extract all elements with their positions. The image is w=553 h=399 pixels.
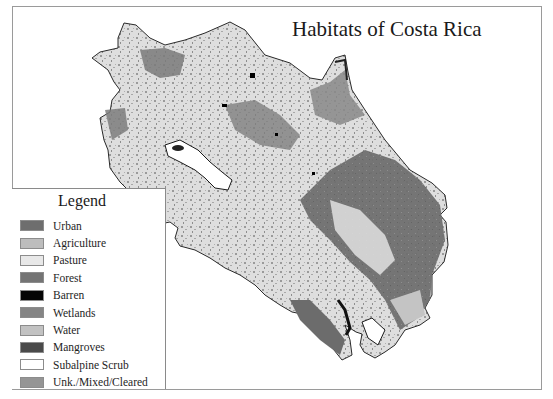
swatch-wetlands [20,307,44,318]
legend-item-pasture: Pasture [20,252,148,269]
legend-item-urban: Urban [20,217,148,234]
legend-item-subalpine-scrub: Subalpine Scrub [20,356,148,373]
swatch-urban [20,220,44,231]
legend-label: Mangroves [53,341,105,353]
legend-label: Subalpine Scrub [53,359,129,371]
swatch-pasture [20,255,44,266]
legend-label: Agriculture [53,237,106,249]
barren-spot [275,133,278,136]
legend-box: Legend Urban Agriculture Pasture Forest … [12,188,166,389]
legend-item-unk-mixed-cleared: Unk./Mixed/Cleared [20,374,148,391]
legend-label: Pasture [53,254,87,266]
swatch-subalpine-scrub [20,359,44,370]
legend-label: Water [53,324,80,336]
legend-item-water: Water [20,321,148,338]
legend-label: Wetlands [53,307,96,319]
legend-item-mangroves: Mangroves [20,339,148,356]
barren-spot [312,172,315,175]
legend-label: Forest [53,272,82,284]
legend-item-forest: Forest [20,269,148,286]
legend-item-wetlands: Wetlands [20,304,148,321]
swatch-water [20,325,44,336]
swatch-unk-mixed-cleared [20,377,44,388]
legend-label: Urban [53,220,82,232]
swatch-barren [20,290,44,301]
map-title: Habitats of Costa Rica [292,17,482,42]
island [172,145,184,151]
legend-items: Urban Agriculture Pasture Forest Barren … [20,217,148,391]
swatch-agriculture [20,238,44,249]
legend-label: Barren [53,289,84,301]
swatch-mangroves [20,342,44,353]
swatch-forest [20,272,44,283]
legend-title: Legend [12,192,152,210]
barren-spot [222,104,227,107]
legend-label: Unk./Mixed/Cleared [53,376,148,388]
legend-item-barren: Barren [20,287,148,304]
barren-spot [250,73,255,78]
legend-item-agriculture: Agriculture [20,234,148,251]
